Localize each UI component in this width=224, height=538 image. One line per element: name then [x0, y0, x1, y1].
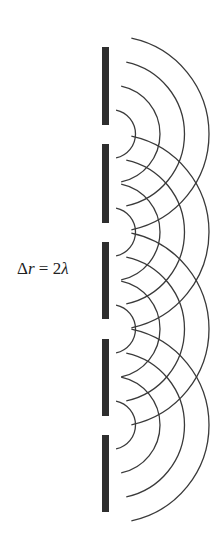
wavefront-arc — [121, 86, 160, 182]
wavefront-arc — [121, 184, 160, 280]
wavefront-arc — [121, 377, 160, 473]
wavefronts — [116, 38, 209, 521]
barrier-segment — [102, 144, 109, 223]
barrier-segment — [102, 47, 109, 125]
lambda-symbol: λ — [61, 259, 68, 278]
wavefront-arc — [121, 281, 160, 377]
path-difference-label: Δr = 2λ — [17, 259, 69, 279]
barrier-segment — [102, 435, 109, 512]
wavefront-arc — [116, 208, 135, 256]
wavefront-arc — [131, 38, 209, 230]
delta-symbol: Δ — [17, 259, 28, 278]
barrier-segment — [102, 339, 109, 416]
wavefront-arc — [131, 136, 209, 328]
wavefront-arc — [116, 110, 135, 158]
wavefront-arc — [131, 233, 209, 425]
variable-r: r — [28, 259, 35, 278]
slit-barrier — [102, 47, 109, 512]
barrier-segment — [102, 242, 109, 319]
wavefront-arc — [131, 329, 209, 521]
equals-two: = 2 — [35, 259, 62, 278]
